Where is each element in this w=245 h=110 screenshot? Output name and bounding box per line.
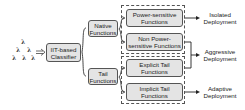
- lambda-icon: λ: [16, 46, 20, 53]
- tail-functions-box: Tail Functions: [88, 68, 118, 85]
- isolated-deployment-label: Isolated Deployment: [200, 11, 240, 25]
- aggressive-deployment-label: Aggressive Deployment: [200, 48, 240, 62]
- lambda-icon: λ: [12, 54, 16, 61]
- native-functions-box: Native Functions: [88, 20, 118, 37]
- brace-classifier: [82, 28, 86, 76]
- power-sensitive-label: Power-sensitive Functions: [127, 11, 182, 25]
- explicit-tail-label: Explicit Tail Functions: [127, 61, 182, 75]
- non-power-sensitive-label: Non Power-sensitive Functions: [127, 35, 182, 49]
- classifier-label: IIT-based Classifier: [47, 46, 80, 60]
- native-functions-label: Native Functions: [89, 22, 117, 36]
- non-power-sensitive-box: Non Power-sensitive Functions: [126, 33, 183, 51]
- lambda-icon: λ: [22, 54, 26, 61]
- double-arrow-icon: [36, 49, 45, 56]
- lambda-icon: λ: [27, 46, 31, 53]
- lambda-icon: λ: [21, 38, 25, 45]
- power-sensitive-box: Power-sensitive Functions: [126, 9, 183, 27]
- implicit-tail-label: Implicit Tail Functions: [127, 85, 182, 99]
- adaptive-deployment-label: Adaptive Deployment: [200, 85, 240, 99]
- implicit-tail-box: Implicit Tail Functions: [126, 83, 183, 101]
- classifier-box: IIT-based Classifier: [46, 43, 81, 62]
- tail-functions-label: Tail Functions: [89, 70, 117, 84]
- explicit-tail-box: Explicit Tail Functions: [126, 59, 183, 77]
- lambda-icon: λ: [31, 54, 35, 61]
